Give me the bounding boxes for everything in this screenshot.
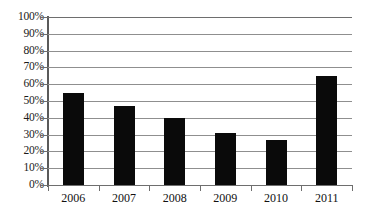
- bar-2011[interactable]: [316, 76, 337, 185]
- x-axis-label-2007: 2007: [99, 191, 150, 205]
- gridline-70%: [48, 67, 352, 68]
- bar-2009[interactable]: [215, 133, 236, 185]
- y-axis-label: 100%: [4, 11, 44, 23]
- x-axis-tick: [352, 185, 353, 191]
- y-axis-label: 30%: [4, 129, 44, 141]
- x-axis-label-2009: 2009: [200, 191, 251, 205]
- y-axis-tick: [41, 101, 48, 102]
- x-axis-tick: [149, 185, 150, 191]
- y-axis-tick: [41, 118, 48, 119]
- y-axis-label: 90%: [4, 28, 44, 40]
- y-axis-tick: [41, 51, 48, 52]
- x-axis-label-2006: 2006: [48, 191, 99, 205]
- gridline-60%: [48, 84, 352, 85]
- x-axis-label-2011: 2011: [301, 191, 352, 205]
- y-axis-tick: [41, 185, 48, 186]
- gridline-90%: [48, 34, 352, 35]
- y-axis-tick: [41, 168, 48, 169]
- y-axis-label: 40%: [4, 112, 44, 124]
- bar-chart: 0%10%20%30%40%50%60%70%80%90%100% 200620…: [0, 0, 365, 216]
- y-axis-labels: 0%10%20%30%40%50%60%70%80%90%100%: [0, 0, 44, 216]
- gridline-30%: [48, 135, 352, 136]
- y-axis-label: 80%: [4, 45, 44, 57]
- bar-2006[interactable]: [63, 93, 84, 185]
- gridline-50%: [48, 101, 352, 102]
- y-axis-label: 70%: [4, 61, 44, 73]
- y-axis-label: 50%: [4, 95, 44, 107]
- y-axis-label: 10%: [4, 162, 44, 174]
- x-axis-label-2008: 2008: [149, 191, 200, 205]
- x-axis-tick: [99, 185, 100, 191]
- y-axis-tick: [41, 17, 48, 18]
- x-axis-tick: [200, 185, 201, 191]
- y-axis-tick: [41, 135, 48, 136]
- gridline-40%: [48, 118, 352, 119]
- y-axis-label: 60%: [4, 78, 44, 90]
- y-axis-label: 0%: [4, 179, 44, 191]
- bar-2008[interactable]: [164, 118, 185, 185]
- y-axis-tick: [41, 84, 48, 85]
- y-axis-label: 20%: [4, 145, 44, 157]
- y-axis-tick: [41, 151, 48, 152]
- y-axis-tick: [41, 67, 48, 68]
- gridline-10%: [48, 168, 352, 169]
- bar-2007[interactable]: [114, 106, 135, 185]
- bar-2010[interactable]: [266, 140, 287, 185]
- gridline-80%: [48, 51, 352, 52]
- gridline-20%: [48, 151, 352, 152]
- x-axis-label-2010: 2010: [251, 191, 302, 205]
- x-axis-tick: [251, 185, 252, 191]
- gridline-100%: [48, 17, 352, 18]
- y-axis-tick: [41, 34, 48, 35]
- plot-area: [48, 17, 352, 185]
- x-axis-tick: [48, 185, 49, 191]
- x-axis-tick: [301, 185, 302, 191]
